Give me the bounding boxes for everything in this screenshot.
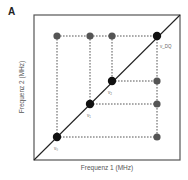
- label-nu0: ν₀: [54, 146, 58, 151]
- cross-peak: [53, 32, 60, 39]
- cross-peak: [153, 133, 160, 140]
- label-nu-dq: ν_DQ: [160, 44, 172, 49]
- cross-peak: [86, 32, 93, 39]
- diagonal-peak: [53, 133, 61, 141]
- label-nu2: ν₂: [108, 90, 112, 95]
- diagonal-peak: [108, 77, 116, 85]
- y-axis-label: Frequenz 2 (MHz): [18, 61, 25, 113]
- cross-peak: [153, 100, 160, 107]
- label-nu1: ν₁: [87, 113, 91, 118]
- diagonal-peak: [86, 100, 94, 108]
- cross-peak: [153, 77, 160, 84]
- diagonal-peak: [153, 32, 161, 40]
- correlation-diagram: ν₀ ν₁ ν₂ ν_DQ: [0, 0, 188, 180]
- cross-peak: [108, 32, 115, 39]
- x-axis-label: Frequenz 1 (MHz): [34, 164, 180, 171]
